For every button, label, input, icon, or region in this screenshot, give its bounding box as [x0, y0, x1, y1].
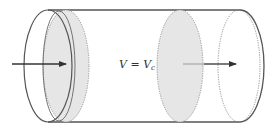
label-subscript: c	[151, 64, 155, 72]
right-dashed-ellipse	[218, 10, 260, 122]
right-end-ellipse	[240, 10, 264, 122]
left-shaded-disc	[43, 10, 89, 122]
control-volume-cylinder-diagram: V = Vc	[0, 0, 275, 132]
volume-equation-label: V = Vc	[119, 58, 155, 72]
middle-shaded-disc	[157, 10, 203, 122]
label-main: V = V	[119, 58, 152, 71]
